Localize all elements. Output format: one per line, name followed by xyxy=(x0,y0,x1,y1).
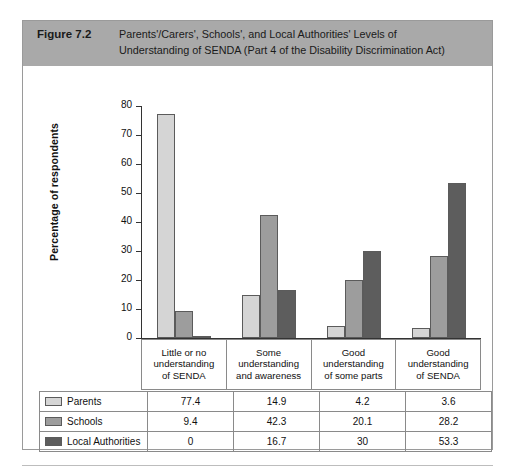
category-label-line: Little or no xyxy=(144,347,224,359)
category-label-line: Good xyxy=(398,347,478,359)
y-axis-title: Percentage of respondents xyxy=(48,107,60,277)
y-axis-tick-label: 10 xyxy=(110,302,132,313)
bar-schools xyxy=(260,215,278,338)
category-label-line: and awareness xyxy=(229,370,309,382)
category-label-line: understanding xyxy=(398,358,478,370)
bar-group xyxy=(142,106,227,338)
y-axis-tick-label: 70 xyxy=(110,128,132,139)
y-axis-tick: 50 xyxy=(136,193,141,194)
bars-layer xyxy=(142,106,481,338)
data-value-cell: 0 xyxy=(148,432,234,452)
y-axis-tick-label: 30 xyxy=(110,244,132,255)
bar-group xyxy=(312,106,397,338)
data-value-cell: 77.4 xyxy=(148,392,234,412)
figure-caption-line-2: Understanding of SENDA (Part 4 of the Di… xyxy=(119,43,484,59)
legend-swatch-icon xyxy=(45,437,62,446)
data-value-cell: 3.6 xyxy=(406,392,492,412)
bar-schools xyxy=(175,311,193,338)
figure-caption: Parents'/Carers', Schools', and Local Au… xyxy=(119,27,492,58)
y-axis-tick-label: 40 xyxy=(110,215,132,226)
y-axis-tick: 80 xyxy=(136,106,141,107)
legend-entry: Parents xyxy=(40,392,148,412)
y-axis-tick: 20 xyxy=(136,280,141,281)
figure-number: Figure 7.2 xyxy=(23,27,119,42)
data-value-cell: 42.3 xyxy=(234,412,320,432)
category-cell: Goodunderstandingof SENDA xyxy=(396,340,481,390)
category-label-line: understanding xyxy=(314,358,394,370)
figure-header-band: Figure 7.2 Parents'/Carers', Schools', a… xyxy=(23,21,492,66)
bar-parents xyxy=(412,328,430,338)
category-cell: Little or nounderstandingof SENDA xyxy=(142,340,227,390)
table-row: Local Authorities016.73053.3 xyxy=(40,432,492,452)
category-label-line: Some xyxy=(229,347,309,359)
chart-axes: 01020304050607080 xyxy=(141,106,481,338)
legend-entry: Schools xyxy=(40,412,148,432)
y-axis-tick: 40 xyxy=(136,222,141,223)
figure-caption-line-1: Parents'/Carers', Schools', and Local Au… xyxy=(119,27,484,43)
category-label-line: of SENDA xyxy=(144,370,224,382)
legend-series-name: Schools xyxy=(67,416,103,427)
legend-series-name: Local Authorities xyxy=(67,436,140,447)
y-axis-tick-label: 60 xyxy=(110,157,132,168)
data-value-cell: 30 xyxy=(320,432,406,452)
legend-series-name: Parents xyxy=(67,396,101,407)
category-label-line: understanding xyxy=(229,358,309,370)
data-value-cell: 20.1 xyxy=(320,412,406,432)
category-label-line: Good xyxy=(314,347,394,359)
bar-group xyxy=(227,106,312,338)
data-value-cell: 53.3 xyxy=(406,432,492,452)
bar-local-authorities xyxy=(448,183,466,338)
bar-parents xyxy=(242,295,260,338)
category-label-line: of some parts xyxy=(314,370,394,382)
category-label-table: Little or nounderstandingof SENDASomeund… xyxy=(141,339,481,390)
data-value-cell: 4.2 xyxy=(320,392,406,412)
figure-frame: Figure 7.2 Parents'/Carers', Schools', a… xyxy=(22,20,493,450)
bar-schools xyxy=(430,256,448,338)
bar-local-authorities xyxy=(278,290,296,338)
bar-schools xyxy=(345,280,363,338)
data-value-cell: 9.4 xyxy=(148,412,234,432)
y-axis-tick-label: 80 xyxy=(110,99,132,110)
bar-local-authorities xyxy=(363,251,381,338)
category-label-line: of SENDA xyxy=(398,370,478,382)
category-label-line: understanding xyxy=(144,358,224,370)
bottom-divider xyxy=(22,465,493,466)
y-axis-tick: 30 xyxy=(136,251,141,252)
chart-plot-region: Percentage of respondents 01020304050607… xyxy=(23,66,492,451)
y-axis-tick: 70 xyxy=(136,135,141,136)
legend-data-table: Parents77.414.94.23.6Schools9.442.320.12… xyxy=(39,391,492,452)
table-row-categories: Little or nounderstandingof SENDASomeund… xyxy=(142,340,481,390)
y-axis-tick-label: 0 xyxy=(110,331,132,342)
y-axis-tick-label: 20 xyxy=(110,273,132,284)
data-value-cell: 14.9 xyxy=(234,392,320,412)
bar-local-authorities xyxy=(193,336,211,338)
category-cell: Goodunderstandingof some parts xyxy=(311,340,396,390)
y-axis-tick: 10 xyxy=(136,309,141,310)
legend-swatch-icon xyxy=(45,397,62,406)
bar-parents xyxy=(157,114,175,338)
legend-entry: Local Authorities xyxy=(40,432,148,452)
data-value-cell: 28.2 xyxy=(406,412,492,432)
y-axis-tick: 60 xyxy=(136,164,141,165)
table-row: Schools9.442.320.128.2 xyxy=(40,412,492,432)
category-cell: Someunderstandingand awareness xyxy=(226,340,311,390)
legend-swatch-icon xyxy=(45,417,62,426)
table-row: Parents77.414.94.23.6 xyxy=(40,392,492,412)
y-axis-tick-label: 50 xyxy=(110,186,132,197)
bar-group xyxy=(396,106,481,338)
data-value-cell: 16.7 xyxy=(234,432,320,452)
bar-parents xyxy=(327,326,345,338)
